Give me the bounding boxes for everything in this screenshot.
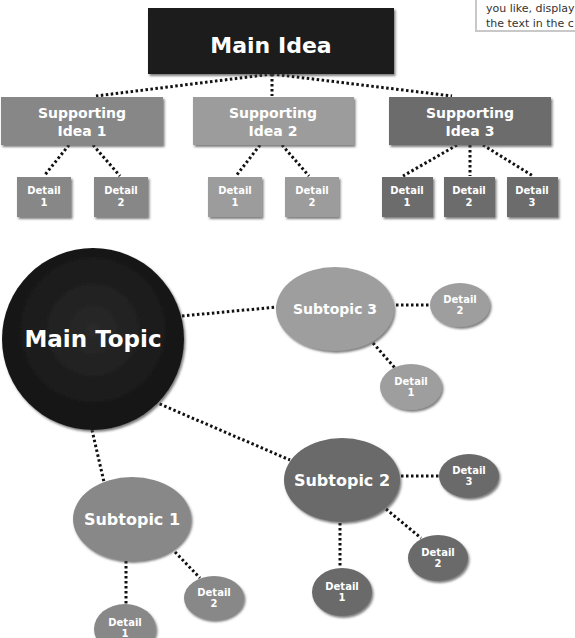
svg-text:3: 3 <box>466 476 473 487</box>
supporting-idea-3: Supporting Idea 3 <box>389 97 551 145</box>
subtopic-2-detail-1: Detail 1 <box>312 568 372 616</box>
main-topic-label: Main Topic <box>24 326 161 352</box>
svg-text:1: 1 <box>232 197 239 208</box>
svg-text:1: 1 <box>408 387 415 398</box>
svg-text:2: 2 <box>466 197 473 208</box>
web-diagram: Main Topic Subtopic 3 Detail 2 Detail 1 … <box>2 248 499 638</box>
subtopic-2-detail-3: Detail 3 <box>439 454 499 498</box>
svg-text:Detail: Detail <box>394 376 427 387</box>
subtopic-1-detail-1: Detail 1 <box>94 604 156 638</box>
svg-text:1: 1 <box>339 592 346 603</box>
supporting-3-detail-3: Detail 3 <box>507 177 558 217</box>
svg-text:2: 2 <box>211 598 218 609</box>
supporting-idea-1-line1: Supporting <box>38 105 126 121</box>
svg-text:Detail: Detail <box>452 465 485 476</box>
svg-text:Detail: Detail <box>295 185 328 196</box>
svg-text:2: 2 <box>118 197 125 208</box>
subtopic-3-detail-1: Detail 1 <box>380 364 442 410</box>
subtopic-3-label: Subtopic 3 <box>293 301 377 317</box>
subtopic-2-label: Subtopic 2 <box>294 471 390 490</box>
subtopic-2-ellipse: Subtopic 2 <box>284 438 400 522</box>
svg-text:Detail: Detail <box>108 617 141 628</box>
subtopic-1-detail-2: Detail 2 <box>184 576 244 620</box>
supporting-2-detail-2: Detail 2 <box>285 177 339 217</box>
svg-text:3: 3 <box>529 197 536 208</box>
supporting-idea-3-line2: Idea 3 <box>446 123 495 139</box>
svg-text:1: 1 <box>404 197 411 208</box>
supporting-idea-2-line1: Supporting <box>229 105 317 121</box>
main-idea-box: Main Idea <box>148 8 394 74</box>
supporting-idea-1: Supporting Idea 1 <box>1 97 163 145</box>
hierarchy-chart: Main Idea Supporting Idea 1 Detail 1 Det… <box>1 8 558 217</box>
svg-text:Detail: Detail <box>390 185 423 196</box>
svg-text:1: 1 <box>122 628 129 638</box>
svg-text:Detail: Detail <box>452 185 485 196</box>
supporting-3-detail-2: Detail 2 <box>444 177 495 217</box>
svg-text:2: 2 <box>435 558 442 569</box>
supporting-1-detail-2: Detail 2 <box>94 177 148 217</box>
svg-text:Detail: Detail <box>443 294 476 305</box>
svg-text:Detail: Detail <box>27 185 60 196</box>
svg-text:Detail: Detail <box>515 185 548 196</box>
main-idea-label: Main Idea <box>210 33 331 58</box>
svg-text:Detail: Detail <box>197 587 230 598</box>
svg-text:2: 2 <box>309 197 316 208</box>
supporting-2-detail-1: Detail 1 <box>208 177 262 217</box>
subtopic-3-detail-2: Detail 2 <box>430 283 490 327</box>
supporting-1-detail-1: Detail 1 <box>17 177 71 217</box>
svg-text:Detail: Detail <box>104 185 137 196</box>
svg-text:Detail: Detail <box>218 185 251 196</box>
supporting-idea-3-line1: Supporting <box>426 105 514 121</box>
svg-text:Detail: Detail <box>325 581 358 592</box>
main-topic-circle: Main Topic <box>2 248 184 430</box>
svg-text:2: 2 <box>457 305 464 316</box>
supporting-idea-2-line2: Idea 2 <box>249 123 298 139</box>
supporting-idea-2: Supporting Idea 2 <box>193 97 354 145</box>
subtopic-1-ellipse: Subtopic 1 <box>73 477 191 561</box>
subtopic-2-detail-2: Detail 2 <box>408 535 468 581</box>
subtopic-3-ellipse: Subtopic 3 <box>276 267 394 351</box>
svg-text:1: 1 <box>41 197 48 208</box>
supporting-3-detail-1: Detail 1 <box>382 177 433 217</box>
supporting-idea-1-line2: Idea 1 <box>58 123 107 139</box>
subtopic-1-label: Subtopic 1 <box>84 510 180 529</box>
svg-text:Detail: Detail <box>421 547 454 558</box>
